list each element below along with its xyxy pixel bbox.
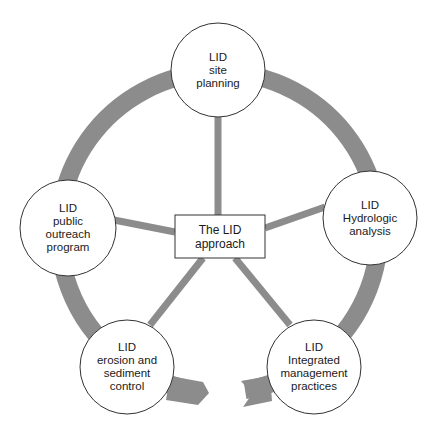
node-line: practices <box>291 380 337 393</box>
node-line: Integrated <box>288 354 340 367</box>
node-line: erosion and <box>97 354 157 367</box>
node-line: outreach <box>46 228 91 241</box>
node-line: public <box>53 215 83 228</box>
node-hydrologic-analysis: LID Hydrologic analysis <box>323 171 417 265</box>
node-line: Hydrologic <box>343 212 397 225</box>
center-label: The LID approach <box>175 215 265 258</box>
node-site-planning: LID site planning <box>171 23 265 117</box>
node-line: sediment <box>104 367 151 380</box>
spoke-hydrologic <box>265 207 325 228</box>
node-line: LID <box>361 199 379 212</box>
node-line: LID <box>209 51 227 64</box>
node-erosion-sediment: LID erosion and sediment control <box>80 320 174 414</box>
node-line: LID <box>118 341 136 354</box>
node-line: LID <box>59 202 77 215</box>
center-label-line-1: The LID <box>199 223 242 237</box>
node-line: program <box>47 241 90 254</box>
node-line: site <box>209 64 227 77</box>
node-line: analysis <box>349 225 391 238</box>
node-line: management <box>280 367 347 380</box>
node-integrated-management: LID Integrated management practices <box>267 320 361 414</box>
node-line: planning <box>196 77 239 90</box>
node-line: LID <box>305 341 323 354</box>
spoke-erosion <box>150 258 203 325</box>
spoke-outreach <box>114 220 175 232</box>
node-line: control <box>110 380 145 393</box>
spoke-integrated <box>235 258 290 325</box>
center-label-line-2: approach <box>195 237 245 251</box>
node-public-outreach: LID public outreach program <box>20 180 116 276</box>
